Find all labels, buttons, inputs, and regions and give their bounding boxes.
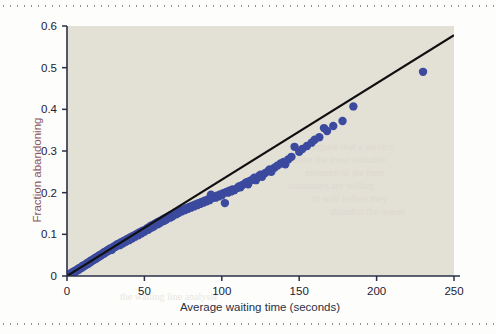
- y-axis-ticks: 00.10.20.30.40.50.6: [41, 20, 67, 282]
- data-point: [419, 68, 427, 76]
- x-axis-tick-label: 100: [212, 285, 231, 297]
- figure-container: recognise that a service often the most …: [0, 0, 496, 334]
- scatter-chart: recognise that a service often the most …: [0, 0, 496, 334]
- data-point: [315, 133, 323, 141]
- y-axis-tick-label: 0.6: [41, 20, 57, 32]
- data-point: [338, 117, 346, 125]
- svg-text:often the most valuable: often the most valuable: [292, 154, 386, 165]
- y-axis-tick-label: 0.5: [41, 62, 57, 74]
- x-axis-tick-label: 0: [64, 285, 70, 297]
- svg-text:abandon the queue: abandon the queue: [330, 206, 406, 217]
- y-axis-tick-label: 0.4: [41, 103, 58, 115]
- y-axis-tick-label: 0.1: [41, 228, 57, 240]
- y-axis-tick-label: 0.3: [41, 145, 57, 157]
- y-axis-tick-label: 0: [51, 270, 57, 282]
- x-axis-tick-label: 50: [138, 285, 151, 297]
- data-point: [287, 153, 295, 161]
- x-axis-title: Average waiting time (seconds): [180, 301, 340, 313]
- y-axis-tick-label: 0.2: [41, 187, 57, 199]
- data-point: [221, 199, 229, 207]
- svg-text:customers are willing: customers are willing: [288, 180, 374, 191]
- x-axis-tick-label: 150: [290, 285, 309, 297]
- svg-text:to wait before they: to wait before they: [312, 193, 387, 204]
- y-axis-title: Fraction abandoning: [31, 118, 43, 223]
- svg-text:measure of the time: measure of the time: [305, 167, 385, 178]
- data-point: [329, 122, 337, 130]
- x-axis-tick-label: 250: [444, 285, 463, 297]
- data-point: [349, 102, 357, 110]
- x-axis-tick-label: 200: [367, 285, 386, 297]
